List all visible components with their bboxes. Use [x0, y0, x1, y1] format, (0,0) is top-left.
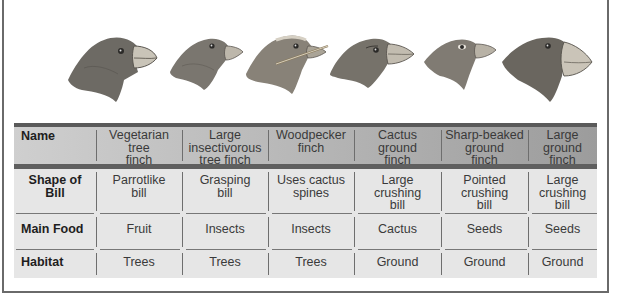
table-body: Shape of Bill Parrotlike bill Grasping b… — [14, 169, 597, 278]
table-cell: Insects — [182, 214, 268, 250]
row-label-shape-of-bill: Shape of Bill — [14, 169, 96, 214]
table-cell: Ground — [528, 250, 597, 278]
row-label-habitat: Habitat — [14, 250, 96, 278]
finch-comparison-table: Name Vegetarian tree finch Large insecti… — [14, 123, 597, 278]
table-cell: Fruit — [96, 214, 182, 250]
table-cell: Large crushing bill — [354, 169, 441, 214]
table-cell: Trees — [96, 250, 182, 278]
table-cell: Seeds — [528, 214, 597, 250]
table-cell: Cactus — [354, 214, 441, 250]
table-cell: Pointed crushing bill — [441, 169, 528, 214]
header-large-insectivorous-tree-finch: Large insectivorous tree finch — [182, 127, 268, 164]
header-cactus-ground-finch: Cactus ground finch — [354, 127, 441, 164]
table-cell: Trees — [268, 250, 354, 278]
cactus-ground-finch-illustration — [328, 32, 416, 94]
large-ground-finch-illustration — [500, 32, 594, 104]
vegetarian-tree-finch-illustration — [64, 28, 160, 104]
table-cell: Large crushing bill — [528, 169, 597, 214]
table-cell: Parrotlike bill — [96, 169, 182, 214]
table-cell: Uses cactus spines — [268, 169, 354, 214]
woodpecker-finch-illustration — [242, 28, 330, 98]
table-row-shape-of-bill: Shape of Bill Parrotlike bill Grasping b… — [14, 169, 597, 214]
header-sharp-beaked-ground-finch: Sharp-beaked ground finch — [441, 127, 528, 164]
table-cell: Ground — [354, 250, 441, 278]
table-cell: Insects — [268, 214, 354, 250]
table-cell: Seeds — [441, 214, 528, 250]
header-woodpecker-finch: Woodpecker finch — [268, 127, 354, 164]
finch-illustrations — [0, 0, 617, 118]
header-large-ground-finch: Large ground finch — [528, 127, 597, 164]
table-cell: Trees — [182, 250, 268, 278]
table-header-row: Name Vegetarian tree finch Large insecti… — [14, 127, 597, 164]
sharp-beaked-ground-finch-illustration — [422, 32, 498, 94]
table-cell: Grasping bill — [182, 169, 268, 214]
header-vegetarian-tree-finch: Vegetarian tree finch — [96, 127, 182, 164]
table-row-habitat: Habitat Trees Trees Trees Ground Ground … — [14, 250, 597, 278]
header-label-name: Name — [14, 127, 96, 164]
row-label-main-food: Main Food — [14, 214, 96, 250]
large-insectivorous-tree-finch-illustration — [168, 32, 244, 94]
table-cell: Ground — [441, 250, 528, 278]
table-row-main-food: Main Food Fruit Insects Insects Cactus S… — [14, 214, 597, 250]
